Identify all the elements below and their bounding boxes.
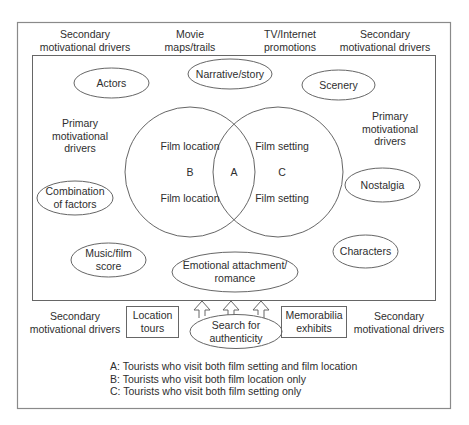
label-line: TV/Internet — [250, 28, 330, 41]
label-line: Emotional attachment/ — [172, 259, 298, 272]
label-location-tours: Location tours — [126, 309, 179, 334]
label-secondary-bottom-right: Secondary motivational drivers — [344, 310, 454, 335]
label-combination: Combination of factors — [37, 185, 113, 210]
label-line: motivational — [40, 130, 120, 143]
label-line: Secondary — [344, 310, 454, 323]
label-line: Secondary — [20, 310, 130, 323]
label-line: Secondary — [30, 28, 140, 41]
venn-right-top: Film setting — [242, 140, 322, 153]
label-music: Music/film score — [71, 247, 146, 272]
label-movie-maps: Movie maps/trails — [150, 28, 230, 53]
venn-left-bottom: Film location — [140, 192, 240, 205]
label-primary-right: Primary motivational drivers — [350, 110, 430, 148]
arrow-up-icon — [194, 301, 210, 318]
diagram-canvas: Secondary motivational drivers Movie map… — [0, 0, 469, 425]
label-line: Location — [126, 309, 179, 322]
label-line: motivational drivers — [330, 41, 440, 54]
label-line: exhibits — [281, 322, 347, 335]
venn-right-letter: C — [242, 166, 322, 179]
label-line: Music/film — [71, 247, 146, 260]
legend-item-c: C: Tourists who visit both film setting … — [110, 385, 357, 398]
label-line: maps/trails — [150, 41, 230, 54]
label-tv-internet: TV/Internet promotions — [250, 28, 330, 53]
label-line: of factors — [37, 198, 113, 211]
label-line: drivers — [350, 135, 430, 148]
legend: A: Tourists who visit both film setting … — [110, 360, 357, 398]
label-line: Movie — [150, 28, 230, 41]
label-line: Combination — [37, 185, 113, 198]
label-line: motivational drivers — [344, 323, 454, 336]
label-secondary-top-left: Secondary motivational drivers — [30, 28, 140, 53]
venn-right-bottom: Film setting — [242, 192, 322, 205]
label-line: motivational drivers — [30, 41, 140, 54]
label-emotional: Emotional attachment/ romance — [172, 259, 298, 284]
arrow-up-icon — [223, 301, 239, 315]
venn-left-top: Film location — [140, 140, 240, 153]
label-actors: Actors — [74, 77, 149, 90]
label-narrative: Narrative/story — [188, 68, 272, 81]
label-memorabilia: Memorabilia exhibits — [281, 309, 347, 334]
label-line: motivational — [350, 123, 430, 136]
label-line: tours — [126, 322, 179, 335]
venn-overlap-letter: A — [224, 166, 244, 179]
label-line: Primary — [40, 117, 120, 130]
arrow-up-icon — [253, 301, 269, 318]
legend-item-a: A: Tourists who visit both film setting … — [110, 360, 357, 373]
label-search: Search for authenticity — [190, 319, 282, 344]
label-line: motivational drivers — [20, 323, 130, 336]
label-line: authenticity — [190, 332, 282, 345]
label-line: Search for — [190, 319, 282, 332]
label-scenery: Scenery — [302, 79, 375, 92]
label-line: Primary — [350, 110, 430, 123]
label-line: Memorabilia — [281, 309, 347, 322]
label-line: drivers — [40, 142, 120, 155]
label-nostalgia: Nostalgia — [345, 179, 420, 192]
label-secondary-bottom-left: Secondary motivational drivers — [20, 310, 130, 335]
label-line: score — [71, 260, 146, 273]
label-secondary-top-right: Secondary motivational drivers — [330, 28, 440, 53]
label-line: Secondary — [330, 28, 440, 41]
legend-item-b: B: Tourists who visit both film location… — [110, 373, 357, 386]
label-characters: Characters — [333, 245, 398, 258]
label-line: promotions — [250, 41, 330, 54]
label-primary-left: Primary motivational drivers — [40, 117, 120, 155]
label-line: romance — [172, 272, 298, 285]
